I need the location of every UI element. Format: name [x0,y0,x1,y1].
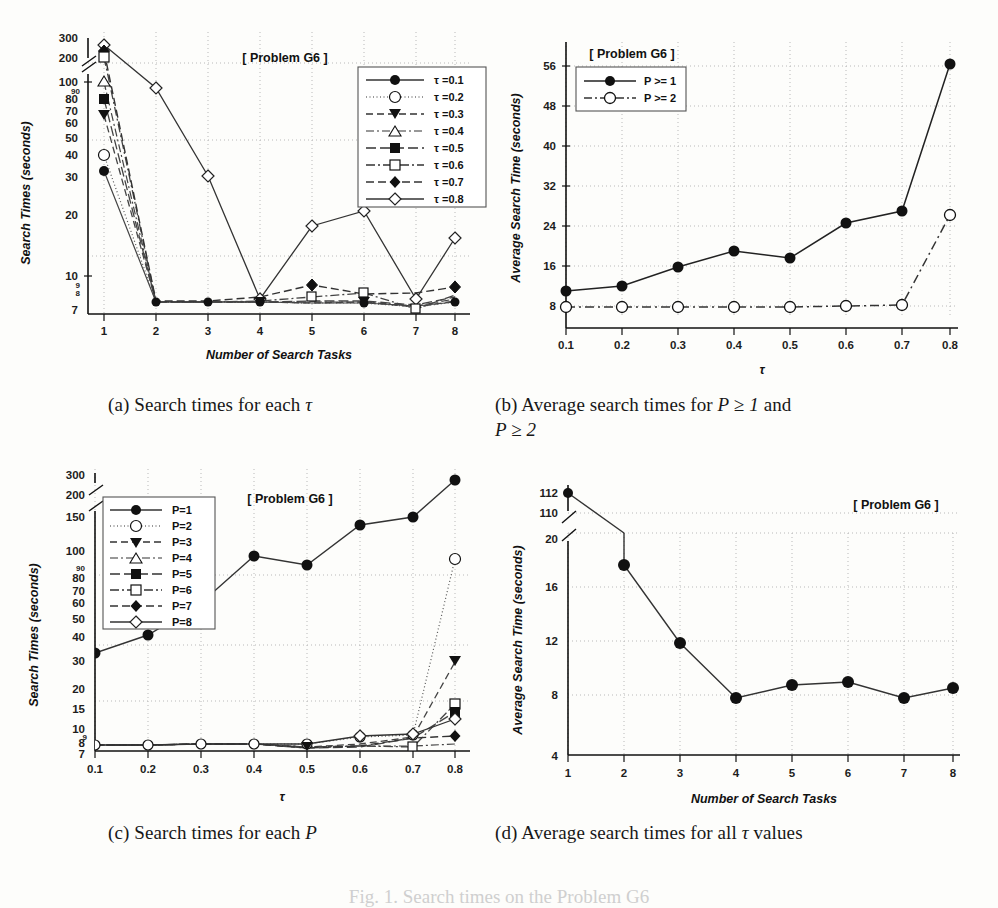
panel-c-search-times-per-p: 300200 150100 90 8070 6050 4030 2015 10 … [0,455,498,825]
svg-text:1: 1 [565,767,572,779]
svg-text:112: 112 [539,487,558,499]
legend-label-c-4: P=5 [172,568,192,580]
svg-text:0.6: 0.6 [352,763,368,775]
svg-text:300: 300 [59,32,78,44]
legend-label-c-2: P=3 [172,536,192,548]
legend-marker-open-circle [131,521,142,532]
legend-marker-filled-circle [390,75,400,85]
legend-label-c-5: P=6 [172,584,192,596]
svg-text:5: 5 [789,767,796,779]
legend-marker-filled-square [131,569,141,579]
legend-marker-filled-square [390,143,400,153]
panel-c-xlabel: τ [279,790,285,804]
subcaption-c-symbol: P [305,822,317,843]
svg-text:30: 30 [72,655,85,667]
svg-text:15: 15 [72,703,85,715]
legend-label-a-6: τ =0.7 [434,176,464,188]
subcaption-d-tail: values [753,822,802,843]
svg-text:0.8: 0.8 [942,339,959,351]
legend-label-a-0: τ =0.1 [434,74,464,86]
panel-c-plot: 300200 150100 90 8070 6050 4030 2015 10 … [0,455,498,825]
panel-a-legend: τ =0.1 τ =0.2 τ =0.3 τ =0.4 τ =0.5 τ =0.… [358,67,486,207]
svg-text:24: 24 [543,220,556,232]
subcaption-a-prefix: (a) [108,394,129,415]
legend-label-a-1: τ =0.2 [434,91,464,103]
svg-text:8: 8 [552,689,559,701]
svg-text:7: 7 [413,325,419,337]
legend-label-a-4: τ =0.5 [434,142,464,154]
panel-d-xlabel: Number of Search Tasks [691,792,837,806]
svg-text:4: 4 [257,325,264,337]
svg-text:300: 300 [66,469,85,481]
legend-marker-open-square [131,585,141,595]
panel-d-ylabel: Average Search Time (seconds) [511,545,525,735]
svg-text:48: 48 [543,100,556,112]
panel-d-plot: 112110 2016 128 4 12 34 56 78 Number of … [498,455,998,825]
panel-a-plot: 300 200 100 90 80 70 60 50 40 30 20 10 9… [0,18,498,388]
svg-text:20: 20 [72,683,85,695]
panel-b-legend: P >= 1 P >= 2 [576,67,686,111]
svg-text:2: 2 [621,767,627,779]
subcaption-b-prefix: (b) [495,394,517,415]
svg-text:0.5: 0.5 [299,763,316,775]
svg-text:0.4: 0.4 [246,763,263,775]
panel-c-legend: P=1 P=2 P=3 P=4 P=5 P=6 P=7 P=8 [103,497,215,629]
panel-b-problem-annotation: [ Problem G6 ] [589,47,674,61]
subcaption-c: (c) Search times for each P [108,820,317,845]
svg-text:6: 6 [845,767,851,779]
svg-text:8: 8 [76,289,81,298]
svg-text:100: 100 [66,545,85,557]
svg-text:40: 40 [543,140,556,152]
svg-text:5: 5 [309,325,316,337]
svg-text:56: 56 [543,60,556,72]
panel-b-average-search-times: 5648 4032 2416 8 0.10.2 0.30.4 0.50.6 [498,18,998,388]
panel-b-plot: 5648 4032 2416 8 0.10.2 0.30.4 0.50.6 [498,18,998,388]
svg-text:7: 7 [72,304,78,316]
legend-label-b-0: P >= 1 [644,75,676,87]
svg-text:60: 60 [72,597,85,609]
legend-label-a-5: τ =0.6 [434,159,464,171]
panel-c-problem-annotation: [ Problem G6 ] [247,492,332,506]
legend-label-b-1: P >= 2 [644,92,676,104]
panel-b-ylabel: Average Search Time (seconds) [509,93,523,283]
legend-marker-filled-circle [605,76,615,86]
svg-text:8: 8 [550,300,557,312]
svg-text:16: 16 [543,260,556,272]
series-tau-0-5-markers [99,94,109,104]
svg-text:50: 50 [65,132,78,144]
subcaption-c-prefix: (c) [108,822,129,843]
svg-text:0.2: 0.2 [614,339,630,351]
subcaption-d: (d) Average search times for all τ value… [495,820,803,845]
subcaption-b-symbol-1: P ≥ 1 [718,394,759,415]
svg-text:150: 150 [66,511,85,523]
legend-label-a-3: τ =0.4 [434,125,465,137]
svg-text:80: 80 [65,93,78,105]
subcaption-a: (a) Search times for each τ [108,392,312,417]
subcaption-c-text: Search times for each [134,822,300,843]
svg-text:0.1: 0.1 [558,339,575,351]
svg-text:20: 20 [545,533,558,545]
svg-text:0.1: 0.1 [87,763,104,775]
panel-a-xlabel: Number of Search Tasks [206,348,352,362]
subcaption-a-text: Search times for each [134,394,300,415]
subcaption-b-conj: and [764,394,792,415]
legend-label-c-0: P=1 [172,504,192,516]
legend-marker-filled-circle [131,505,141,515]
svg-text:6: 6 [361,325,367,337]
svg-text:70: 70 [65,105,78,117]
svg-text:32: 32 [543,180,556,192]
legend-label-a-7: τ =0.8 [434,193,464,205]
svg-text:12: 12 [545,635,558,647]
svg-text:0.2: 0.2 [140,763,156,775]
series-tau-0-2-markers [99,150,110,161]
svg-text:0.5: 0.5 [782,339,799,351]
subcaption-d-symbol: τ [742,822,749,843]
svg-text:2: 2 [153,325,159,337]
svg-text:200: 200 [59,52,78,64]
legend-label-c-1: P=2 [172,520,192,532]
subcaption-d-prefix: (d) [495,822,517,843]
svg-text:40: 40 [65,149,78,161]
svg-text:0.6: 0.6 [838,339,854,351]
panel-a-ylabel: Search Times (seconds) [19,121,33,265]
